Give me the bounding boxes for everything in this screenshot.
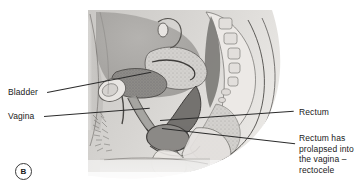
label-rectocele-line-3: the vagina – (299, 154, 359, 165)
label-rectocele-line-1: Rectum has (299, 133, 359, 144)
label-rectum: Rectum (299, 107, 329, 118)
label-vagina: Vagina (8, 111, 34, 122)
label-rectocele-line-2: prolapsed into (299, 144, 359, 155)
label-bladder: Bladder (8, 87, 38, 98)
label-rectocele-line-4: rectocele (299, 165, 359, 176)
label-rectocele-description: Rectum has prolapsed into the vagina – r… (299, 133, 359, 175)
panel-marker-b: B (15, 163, 32, 180)
figure-rectocele-diagram: Bladder Vagina Rectum Rectum has prolaps… (0, 0, 360, 196)
